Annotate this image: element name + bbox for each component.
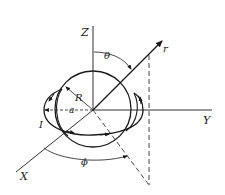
current-arrow-right bbox=[140, 97, 141, 104]
projection-diagonal bbox=[93, 110, 149, 185]
radial-label: r bbox=[163, 43, 169, 54]
theta-arc bbox=[94, 52, 131, 69]
theta-label: θ bbox=[104, 50, 110, 61]
phi-label: ϕ bbox=[81, 156, 88, 167]
current-label: I bbox=[38, 119, 44, 130]
loop-radius-label: a bbox=[69, 105, 74, 115]
z-axis-label: Z bbox=[80, 26, 89, 39]
y-axis-label: Y bbox=[203, 114, 212, 127]
x-axis-label: X bbox=[19, 170, 29, 183]
current-loop-sphere-diagram: Z Y X r θ ϕ R a I bbox=[0, 0, 225, 195]
sphere-radius-label: R bbox=[74, 92, 83, 103]
